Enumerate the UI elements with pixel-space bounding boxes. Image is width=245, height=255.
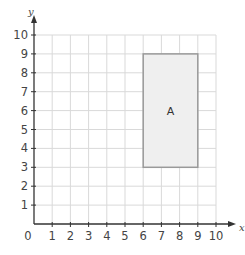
x-tick-label: 8 — [176, 229, 183, 243]
x-tick-label: 9 — [194, 229, 201, 243]
x-tick-label: 3 — [85, 229, 92, 243]
x-tick-label: 7 — [158, 229, 165, 243]
y-tick-label: 2 — [21, 179, 28, 193]
y-tick-label: 9 — [21, 47, 28, 61]
x-tick-label: 2 — [67, 229, 74, 243]
y-tick-label: 6 — [21, 104, 28, 118]
rectangle-label: A — [167, 105, 175, 118]
x-tick-label: 6 — [140, 229, 147, 243]
coordinate-grid-figure: Axy01234567891012345678910 — [0, 0, 245, 255]
x-axis-label: x — [239, 222, 245, 233]
y-tick-label: 1 — [21, 198, 28, 212]
x-tick-label: 1 — [49, 229, 56, 243]
y-tick-label: 5 — [21, 123, 28, 137]
origin-label: 0 — [24, 229, 31, 243]
y-tick-label: 3 — [21, 160, 28, 174]
x-axis-arrow-icon — [228, 221, 236, 227]
x-tick-label: 5 — [121, 229, 128, 243]
coordinate-plane: Axy01234567891012345678910 — [0, 0, 245, 255]
y-tick-label: 4 — [21, 141, 28, 155]
x-tick-label: 10 — [209, 229, 224, 243]
y-tick-label: 8 — [21, 66, 28, 80]
y-tick-label: 7 — [21, 85, 28, 99]
y-tick-label: 10 — [13, 28, 28, 42]
x-tick-label: 4 — [103, 229, 110, 243]
y-axis-label: y — [27, 6, 34, 17]
